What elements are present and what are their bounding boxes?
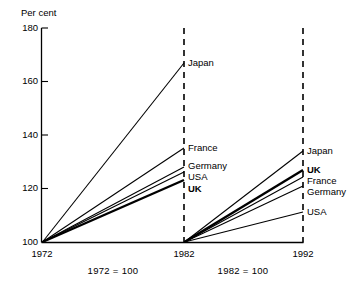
series-label-germany-1982: Germany: [307, 187, 346, 197]
series-line-uk-1972: [43, 180, 185, 242]
y-tick-label-120: 120: [16, 183, 38, 193]
series-line-usa-1982: [185, 212, 304, 242]
series-line-germany-1972: [43, 167, 185, 242]
y-axis-title: Per cent: [21, 8, 56, 18]
panel-caption-left: 1972 = 100: [68, 266, 158, 276]
series-line-germany-1982: [185, 186, 304, 242]
series-label-usa-1972: USA: [188, 172, 208, 182]
series-line-france-1972: [43, 148, 185, 242]
series-label-uk-1982: UK: [307, 165, 321, 175]
series-label-france-1982: France: [307, 176, 337, 186]
series-line-france-1982: [185, 177, 304, 242]
x-tick-label-1992: 1992: [286, 249, 320, 259]
y-tick-label-180: 180: [16, 23, 38, 33]
series-label-uk-1972: UK: [188, 184, 202, 194]
series-label-usa-1982: USA: [307, 207, 327, 217]
series-label-france-1972: France: [188, 143, 218, 153]
x-tick-label-1982: 1982: [167, 249, 201, 259]
series-label-japan-1982: Japan: [307, 146, 333, 156]
y-tick-label-100: 100: [16, 237, 38, 247]
x-tick-label-1972: 1972: [25, 249, 59, 259]
series-label-germany-1972: Germany: [188, 161, 227, 171]
series-label-japan-1972: Japan: [188, 58, 214, 68]
y-tick-label-140: 140: [16, 130, 38, 140]
series-line-japan-1972: [43, 63, 185, 242]
y-tick-label-160: 160: [16, 76, 38, 86]
index-line-chart: Per cent 180 160 140 120 100 1972 1982 1…: [0, 0, 361, 294]
panel-caption-right: 1982 = 100: [198, 266, 288, 276]
